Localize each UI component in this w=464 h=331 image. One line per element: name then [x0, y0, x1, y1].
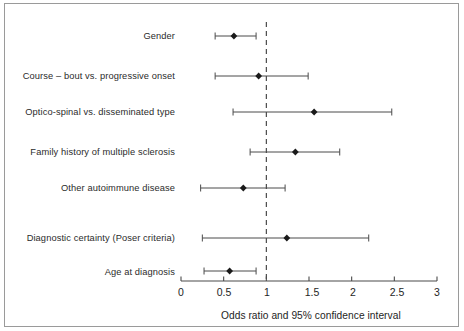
- row-label-optico-spinal: Optico-spinal vs. disseminated type: [5, 107, 175, 117]
- xtick-label-2: 2: [343, 287, 363, 298]
- forest-row: [215, 73, 308, 80]
- row-label-gender: Gender: [5, 31, 175, 41]
- odds-ratio-marker: [231, 33, 238, 40]
- forest-plot-figure: Gender Course – bout vs. progressive ons…: [0, 0, 464, 331]
- plot-canvas: [0, 0, 464, 331]
- xtick-label-0: 0: [171, 287, 191, 298]
- xtick-label-1.5: 1.5: [300, 287, 324, 298]
- row-label-diagnostic-certainty: Diagnostic certainty (Poser criteria): [5, 233, 175, 243]
- odds-ratio-marker: [255, 73, 262, 80]
- odds-ratio-marker: [283, 235, 290, 242]
- row-label-age-at-diagnosis: Age at diagnosis: [5, 267, 175, 277]
- odds-ratio-marker: [311, 109, 318, 116]
- odds-ratio-marker: [292, 149, 299, 156]
- forest-row: [201, 185, 285, 192]
- x-axis-title: Odds ratio and 95% confidence interval: [221, 310, 401, 321]
- forest-row: [233, 109, 392, 116]
- forest-row: [204, 268, 256, 275]
- odds-ratio-marker: [240, 185, 247, 192]
- row-label-course: Course – bout vs. progressive onset: [5, 71, 175, 81]
- xtick-label-0.5: 0.5: [212, 287, 236, 298]
- xtick-label-1: 1: [257, 287, 277, 298]
- row-label-other-autoimmune: Other autoimmune disease: [5, 183, 175, 193]
- forest-row: [250, 149, 340, 156]
- xtick-label-3: 3: [427, 287, 447, 298]
- forest-row: [202, 235, 368, 242]
- row-label-family-history: Family history of multiple sclerosis: [5, 147, 175, 157]
- xtick-label-2.5: 2.5: [385, 287, 409, 298]
- odds-ratio-marker: [226, 268, 233, 275]
- forest-row: [215, 33, 256, 40]
